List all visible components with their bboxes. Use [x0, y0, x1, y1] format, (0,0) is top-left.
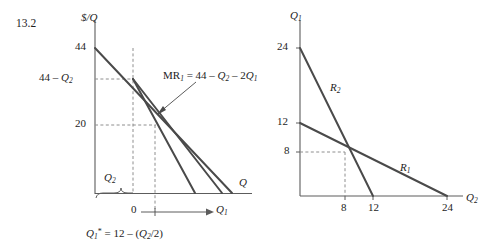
- left-ytick-44: 44: [75, 41, 86, 52]
- left-ytick-44-minus-q2: 44 – Q2: [39, 72, 73, 84]
- figure-canvas: [0, 0, 487, 251]
- reaction-curve-2-label: R2: [330, 82, 340, 94]
- right-ytick-24-label: 24: [277, 41, 288, 52]
- right-y-axis-label: Q1: [290, 10, 302, 22]
- right-xtick-24-label: 24: [442, 202, 453, 213]
- left-ytick-20: 20: [75, 118, 86, 129]
- mr-annotation: MR1 = 44 – Q2 – 2Q1: [163, 70, 258, 82]
- right-panel-graph: [296, 20, 463, 200]
- reaction-curve-firm-2: [300, 48, 373, 196]
- q2-brace: [96, 188, 133, 198]
- left-inner-q1-arrowhead: [206, 209, 214, 216]
- figure-container: 13.2 $/Q 44 44 – Q2 20 Q2 0 Q1 Q MR1 = 4…: [0, 0, 487, 251]
- residual-demand-curve: [133, 79, 222, 193]
- right-ytick-12-label: 12: [277, 116, 288, 127]
- mr-annotation-leader: [160, 82, 196, 112]
- left-origin-label: 0: [131, 204, 137, 215]
- right-xtick-12-label: 12: [368, 202, 379, 213]
- right-x-axis-label: Q2: [466, 192, 478, 204]
- figure-number: 13.2: [16, 18, 36, 30]
- q2-brace-label: Q2: [104, 172, 116, 184]
- right-ytick-8-label: 8: [284, 145, 290, 156]
- reaction-curve-1-label: R1: [400, 162, 410, 174]
- left-caption-formula: Q1* = 12 – (Q2/2): [86, 228, 163, 241]
- left-q-axis-label: Q: [239, 177, 247, 188]
- left-panel-graph: [95, 20, 252, 216]
- right-xtick-8-label: 8: [341, 202, 347, 213]
- marginal-revenue-curve: [133, 79, 195, 193]
- left-y-axis-label: $/Q: [81, 12, 98, 23]
- left-inner-q1-axis-label: Q1: [216, 204, 228, 216]
- reaction-curve-firm-1: [300, 123, 447, 196]
